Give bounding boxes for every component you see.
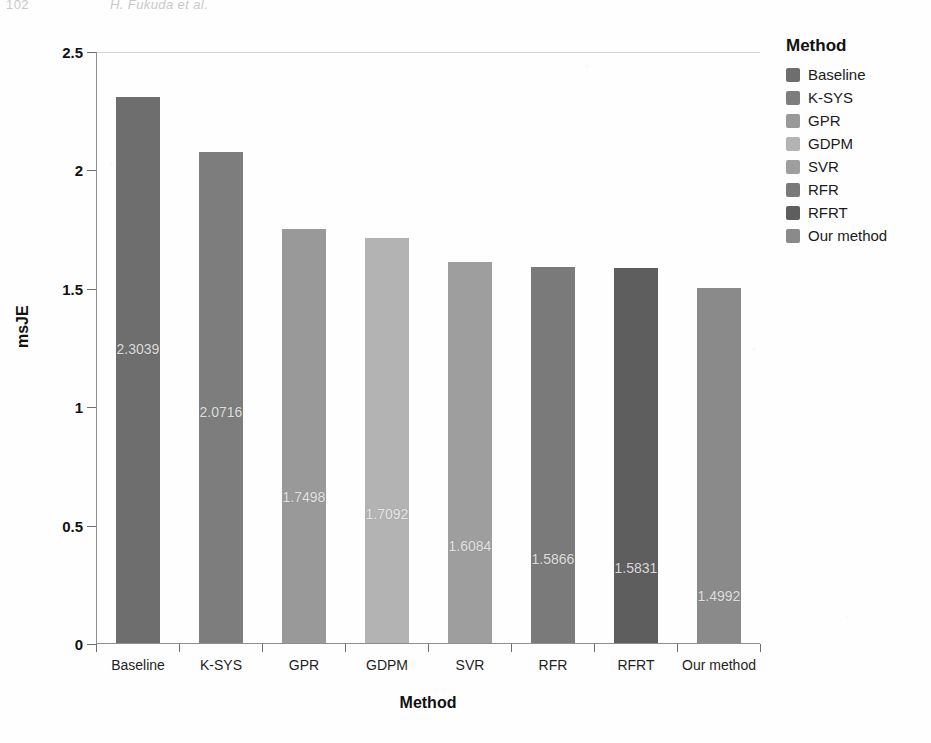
bar-value-label: 2.3039	[117, 341, 160, 357]
legend-item-label: RFRT	[808, 204, 848, 221]
legend-item-label: RFR	[808, 181, 839, 198]
x-axis-tick	[428, 644, 429, 652]
x-axis-category-label: Baseline	[111, 657, 165, 673]
bar-value-label: 1.5866	[532, 551, 575, 567]
legend-item[interactable]: GDPM	[786, 132, 926, 155]
legend-swatch-icon	[786, 206, 800, 220]
bar-value-label: 1.7498	[283, 489, 326, 505]
bar-value-label: 1.5831	[615, 560, 658, 576]
y-axis-line	[96, 52, 97, 644]
bar: 1.6084	[448, 262, 492, 643]
x-axis-category-label: RFR	[539, 657, 568, 673]
bar: 1.5866	[531, 267, 575, 643]
bar: 1.4992	[697, 288, 741, 643]
y-axis-tick-label: 0.5	[62, 517, 83, 534]
y-axis-title: msJE	[14, 305, 32, 348]
bar: 1.7498	[282, 229, 326, 643]
legend-item-label: Our method	[808, 227, 887, 244]
legend-item[interactable]: K-SYS	[786, 86, 926, 109]
x-axis-category-label: GDPM	[366, 657, 408, 673]
y-axis-tick-label: 1.5	[62, 280, 83, 297]
x-axis-tick	[511, 644, 512, 652]
x-axis-category-label: K-SYS	[200, 657, 242, 673]
legend-item[interactable]: RFRT	[786, 201, 926, 224]
bar-value-label: 1.7092	[366, 506, 409, 522]
y-axis-tick	[87, 526, 96, 527]
x-axis-category-label: SVR	[456, 657, 485, 673]
x-axis-category-label: RFRT	[617, 657, 654, 673]
x-axis-tick	[96, 644, 97, 652]
x-axis-tick	[594, 644, 595, 652]
running-head: 102 H. Fukuda et al.	[0, 0, 931, 13]
chart-top-gridline	[96, 52, 760, 53]
bar-value-label: 2.0716	[200, 404, 243, 420]
bar: 2.3039	[116, 97, 160, 643]
y-axis-tick-label: 1	[75, 399, 83, 416]
y-axis-tick	[87, 170, 96, 171]
bar-value-label: 1.4992	[698, 588, 741, 604]
legend-item-label: SVR	[808, 158, 839, 175]
scanned-page: 102 H. Fukuda et al. 00.511.522.5 2.3039…	[0, 0, 931, 743]
legend-item[interactable]: RFR	[786, 178, 926, 201]
bar: 2.0716	[199, 152, 243, 643]
legend-swatch-icon	[786, 137, 800, 151]
x-axis-category-label: Our method	[682, 657, 756, 673]
legend-swatch-icon	[786, 68, 800, 82]
y-axis-tick	[87, 289, 96, 290]
y-axis-tick	[87, 644, 96, 645]
chart-legend: Method BaselineK-SYSGPRGDPMSVRRFRRFRTOur…	[786, 36, 926, 247]
running-head-text: H. Fukuda et al.	[110, 0, 208, 12]
legend-item[interactable]: GPR	[786, 109, 926, 132]
x-axis-tick	[760, 644, 761, 652]
legend-item[interactable]: SVR	[786, 155, 926, 178]
x-axis-tick	[179, 644, 180, 652]
legend-item-label: GPR	[808, 112, 841, 129]
legend-swatch-icon	[786, 91, 800, 105]
x-axis-title: Method	[96, 694, 760, 712]
x-axis-tick	[262, 644, 263, 652]
legend-item-label: Baseline	[808, 66, 866, 83]
legend-swatch-icon	[786, 160, 800, 174]
running-head-page-number: 102	[6, 0, 29, 12]
legend-swatch-icon	[786, 183, 800, 197]
legend-item-label: GDPM	[808, 135, 853, 152]
legend-item[interactable]: Our method	[786, 224, 926, 247]
x-axis-category-label: GPR	[289, 657, 319, 673]
legend-swatch-icon	[786, 229, 800, 243]
legend-item-list: BaselineK-SYSGPRGDPMSVRRFRRFRTOur method	[786, 63, 926, 247]
y-axis-tick-label: 2	[75, 162, 83, 179]
legend-item-label: K-SYS	[808, 89, 853, 106]
bar-value-label: 1.6084	[449, 538, 492, 554]
y-axis-tick-label: 2.5	[62, 44, 83, 61]
y-axis-tick	[87, 407, 96, 408]
x-axis-tick	[345, 644, 346, 652]
x-axis-tick	[677, 644, 678, 652]
bar-chart-plot-area: 00.511.522.5 2.30392.07161.74981.70921.6…	[96, 52, 760, 644]
bar: 1.7092	[365, 238, 409, 643]
legend-swatch-icon	[786, 114, 800, 128]
bar: 1.5831	[614, 268, 658, 643]
legend-title: Method	[786, 36, 926, 56]
legend-item[interactable]: Baseline	[786, 63, 926, 86]
y-axis-tick	[87, 52, 96, 53]
y-axis-tick-label: 0	[75, 636, 83, 653]
